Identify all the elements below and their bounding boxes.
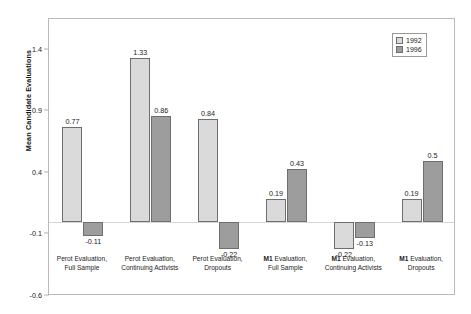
bar-value-label: 0.43 — [290, 159, 304, 168]
y-axis-tick-mark — [44, 48, 49, 49]
y-axis-tick-label: -0.6 — [0, 291, 48, 300]
legend-label-1996: 1996 — [406, 46, 422, 53]
legend-item-1992: 1992 — [396, 36, 422, 45]
y-axis-tick-label: -0.1 — [0, 229, 48, 238]
x-axis-label-group-1: Perot Evaluation,Full Sample — [57, 255, 107, 272]
x-axis-label-group-3: Perot Evaluation,Dropouts — [192, 255, 242, 272]
bar-1992-group-1 — [62, 127, 82, 222]
legend-swatch-1992 — [396, 37, 403, 44]
bar-value-label: -0.11 — [85, 237, 101, 246]
bar-1992-group-6 — [402, 199, 422, 222]
y-axis-tick-mark — [44, 171, 49, 172]
legend-label-1992: 1992 — [406, 37, 422, 44]
bar-1992-group-5 — [334, 222, 354, 249]
bar-1996-group-2 — [151, 116, 171, 222]
x-axis-label-group-6: M1 Evaluation,Dropouts — [399, 255, 443, 272]
bar-value-label: 0.19 — [269, 189, 283, 198]
x-axis-label-group-4: M1 Evaluation,Full Sample — [264, 255, 308, 272]
x-axis-label-group-5: M1 Evaluation,Continuing Activists — [325, 255, 382, 272]
bars-layer: 0.77-0.111.330.860.84-0.220.190.43-0.22-… — [49, 19, 454, 294]
y-axis-tick-label: 0.4 — [0, 167, 48, 176]
y-axis-tick-mark — [44, 295, 49, 296]
y-axis-tick-label: 1.4 — [0, 44, 48, 53]
bar-1992-group-4 — [266, 199, 286, 222]
y-axis-tick-mark — [44, 110, 49, 111]
x-axis-label-group-2: Perot Evaluation,Continuing Activists — [121, 255, 178, 272]
bar-value-label: 0.19 — [405, 189, 419, 198]
bar-1996-group-6 — [423, 161, 443, 223]
bar-value-label: 0.77 — [65, 117, 79, 126]
bar-value-label: -0.13 — [357, 239, 373, 248]
bar-1996-group-5 — [355, 222, 375, 238]
plot-area: 0.77-0.111.330.860.84-0.220.190.43-0.22-… — [48, 18, 455, 295]
bar-1992-group-2 — [130, 58, 150, 222]
y-axis-tick-mark — [44, 233, 49, 234]
bar-chart: Mean Candidate Evaluations 0.77-0.111.33… — [0, 0, 471, 314]
bar-1996-group-4 — [287, 169, 307, 222]
y-axis-tick-label: 0.9 — [0, 106, 48, 115]
y-axis-title: Mean Candidate Evaluations — [24, 11, 33, 191]
bar-value-label: 1.33 — [133, 48, 147, 57]
bar-1992-group-3 — [198, 119, 218, 222]
bar-1996-group-3 — [219, 222, 239, 249]
legend-item-1996: 1996 — [396, 45, 422, 54]
bar-1996-group-1 — [83, 222, 103, 236]
bar-value-label: 0.84 — [201, 109, 215, 118]
legend: 1992 1996 — [392, 33, 427, 57]
legend-swatch-1996 — [396, 46, 403, 53]
bar-value-label: 0.5 — [428, 151, 438, 160]
bar-value-label: 0.86 — [154, 106, 168, 115]
